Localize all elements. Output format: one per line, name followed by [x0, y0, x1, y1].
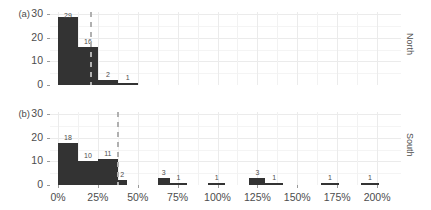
- gridline-vertical-minor: [198, 12, 199, 85]
- gridline-vertical: [297, 112, 298, 185]
- y-axis-tick-label: 30: [21, 107, 43, 119]
- gridline-vertical: [178, 12, 179, 85]
- bar-value-label: 3: [162, 169, 166, 176]
- bar-value-label: 1: [176, 174, 180, 181]
- x-axis-tick-label: 75%: [167, 191, 188, 203]
- y-axis-tick-mark: [47, 185, 50, 186]
- x-axis-tick-mark: [58, 185, 59, 188]
- plot-area-north: 291621: [50, 12, 401, 85]
- gridline-vertical: [138, 112, 139, 185]
- x-axis-tick-label: 200%: [364, 191, 391, 203]
- gridline-vertical-minor: [277, 12, 278, 85]
- gridline-vertical-minor: [237, 112, 238, 185]
- y-axis-tick-mark: [47, 61, 50, 62]
- y-axis-tick-label: 0: [21, 178, 43, 190]
- gridline-vertical-minor: [237, 12, 238, 85]
- x-axis-tick-mark: [297, 185, 298, 188]
- y-axis-tick-mark: [47, 114, 50, 115]
- gridline-horizontal: [50, 14, 401, 15]
- histogram-bar: [58, 143, 78, 185]
- bar-value-label: 1: [215, 174, 219, 181]
- histogram-bar: [78, 47, 98, 85]
- histogram-bar: [98, 80, 118, 85]
- y-axis-tick-label: 10: [21, 54, 43, 66]
- histogram-bar: [78, 161, 98, 185]
- gridline-vertical-minor: [158, 12, 159, 85]
- y-axis-tick-label: 10: [21, 154, 43, 166]
- x-axis-tick-mark: [98, 185, 99, 188]
- bar-value-label: 1: [126, 74, 130, 81]
- gridline-vertical: [218, 12, 219, 85]
- bar-value-label: 1: [328, 174, 332, 181]
- x-axis-tick-mark: [218, 185, 219, 188]
- histogram-bar: [118, 83, 138, 85]
- bar-value-label: 1: [272, 174, 276, 181]
- histogram-bar: [58, 17, 78, 85]
- histogram-bar: [98, 159, 118, 185]
- panel-strip-label-north: North: [405, 33, 415, 55]
- x-axis-tick-mark: [257, 185, 258, 188]
- gridline-vertical: [138, 12, 139, 85]
- histogram-bar: [265, 183, 283, 185]
- gridline-vertical-minor: [158, 112, 159, 185]
- x-axis-tick-label: 100%: [204, 191, 231, 203]
- gridline-vertical-minor: [277, 112, 278, 185]
- gridline-vertical-minor: [317, 112, 318, 185]
- panel-strip-label-south: South: [405, 133, 415, 157]
- bar-value-label: 18: [64, 134, 72, 141]
- gridline-vertical: [297, 12, 298, 85]
- x-axis-tick-mark: [337, 185, 338, 188]
- x-axis-tick-label: 25%: [87, 191, 108, 203]
- gridline-horizontal-minor: [50, 50, 401, 51]
- y-axis-tick-label: 30: [21, 7, 43, 19]
- bar-value-label: 3: [255, 169, 259, 176]
- gridline-horizontal: [50, 114, 401, 115]
- y-axis-tick-mark: [47, 138, 50, 139]
- gridline-vertical-minor: [357, 112, 358, 185]
- bar-value-label: 29: [64, 12, 72, 19]
- bar-value-label: 2: [120, 171, 124, 178]
- histogram-bar: [249, 178, 265, 185]
- x-axis-tick-label: 125%: [244, 191, 271, 203]
- gridline-horizontal: [50, 138, 401, 139]
- histogram-figure: 291621(a)0102030North18101123113111(b)01…: [0, 0, 431, 210]
- gridline-horizontal-minor: [50, 150, 401, 151]
- x-axis-tick-label: 150%: [284, 191, 311, 203]
- gridline-vertical-minor: [317, 12, 318, 85]
- gridline-vertical: [377, 112, 378, 185]
- gridline-horizontal-minor: [50, 126, 401, 127]
- gridline-vertical-minor: [118, 12, 119, 85]
- x-axis-tick-mark: [178, 185, 179, 188]
- y-axis-tick-mark: [47, 14, 50, 15]
- x-axis-tick-label: 0%: [50, 191, 65, 203]
- histogram-bar: [118, 180, 127, 185]
- gridline-vertical: [337, 12, 338, 85]
- gridline-vertical-minor: [198, 112, 199, 185]
- bar-value-label: 2: [106, 71, 110, 78]
- gridline-vertical: [377, 12, 378, 85]
- reference-line-dashed: [90, 12, 92, 85]
- gridline-vertical: [257, 12, 258, 85]
- x-axis-tick-label: 175%: [324, 191, 351, 203]
- bar-value-label: 1: [368, 174, 372, 181]
- bar-value-label: 10: [84, 152, 92, 159]
- gridline-horizontal-minor: [50, 73, 401, 74]
- gridline-horizontal: [50, 61, 401, 62]
- y-axis-tick-mark: [47, 85, 50, 86]
- gridline-vertical-minor: [357, 12, 358, 85]
- y-axis-tick-mark: [47, 38, 50, 39]
- y-axis-tick-label: 0: [21, 78, 43, 90]
- gridline-horizontal: [50, 38, 401, 39]
- y-axis-tick-label: 20: [21, 31, 43, 43]
- y-axis-tick-mark: [47, 161, 50, 162]
- x-axis-tick-label: 50%: [127, 191, 148, 203]
- y-axis-tick-label: 20: [21, 131, 43, 143]
- gridline-vertical: [98, 12, 99, 85]
- reference-line-dashed: [117, 112, 119, 185]
- gridline-vertical: [337, 112, 338, 185]
- bar-value-label: 11: [104, 150, 111, 157]
- x-axis-tick-mark: [377, 185, 378, 188]
- plot-area-south: 18101123113111: [50, 112, 401, 185]
- x-axis-tick-mark: [138, 185, 139, 188]
- gridline-horizontal-minor: [50, 26, 401, 27]
